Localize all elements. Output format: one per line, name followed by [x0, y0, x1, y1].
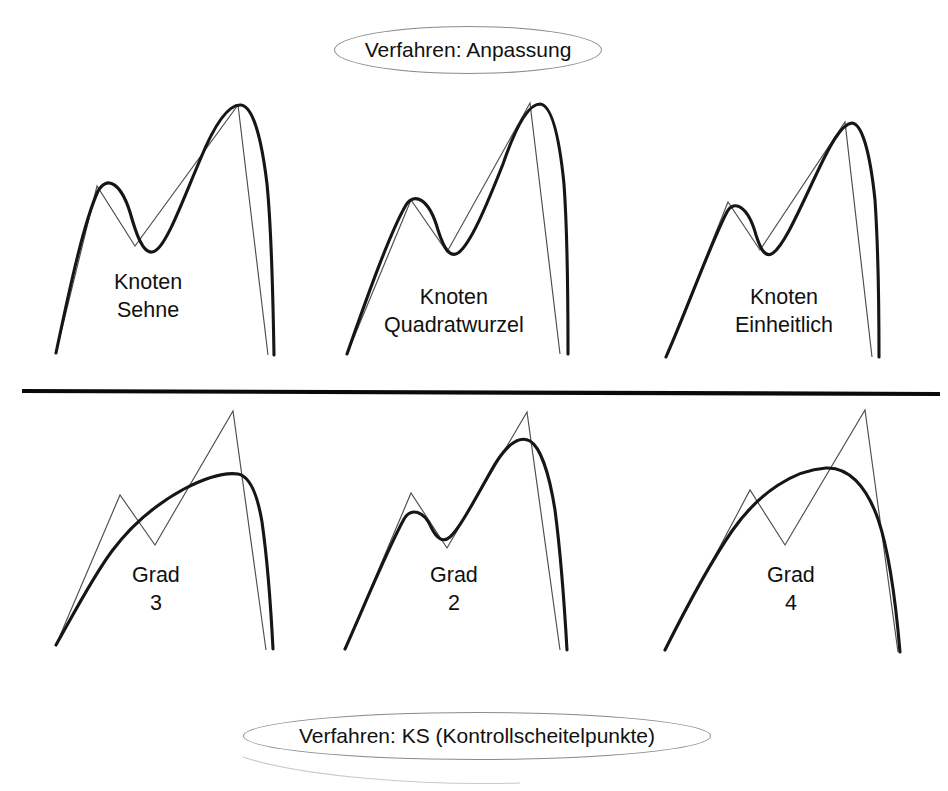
panel-label-line1: Grad [430, 561, 478, 589]
panel-label-line1: Grad [767, 561, 815, 589]
panel-label-knoten-einheitlich: Knoten Einheitlich [735, 283, 833, 340]
panel-label-knoten-sehne: Knoten Sehne [114, 268, 182, 325]
panel-label-line1: Grad [132, 561, 180, 589]
panel-label-line2: Quadratwurzel [384, 311, 524, 339]
diagram-canvas: Verfahren: Anpassung Verfahren: KS (Kont… [0, 0, 948, 791]
banner-verfahren-anpassung: Verfahren: Anpassung [334, 26, 602, 74]
panel-label-line2: Sehne [114, 296, 182, 324]
panel-label-line1: Knoten [735, 283, 833, 311]
bottom-edge-artifact [243, 757, 520, 784]
banner-bottom-label: Verfahren: KS (Kontrollscheitelpunkte) [299, 724, 655, 748]
panel-label-knoten-quadratwurzel: Knoten Quadratwurzel [384, 283, 524, 340]
curve-vector-layer [0, 0, 948, 791]
panel-label-line2: 2 [430, 589, 478, 617]
panel-label-grad-3: Grad 3 [132, 561, 180, 618]
fitted-curve-grad-4 [665, 468, 900, 652]
panel-label-grad-2: Grad 2 [430, 561, 478, 618]
banner-verfahren-ks: Verfahren: KS (Kontrollscheitelpunkte) [243, 712, 711, 760]
fitted-curve-grad-2 [345, 439, 567, 650]
panel-label-grad-4: Grad 4 [767, 561, 815, 618]
panel-label-line2: 4 [767, 589, 815, 617]
panel-label-line1: Knoten [114, 268, 182, 296]
panel-label-line2: 3 [132, 589, 180, 617]
panel-label-line2: Einheitlich [735, 311, 833, 339]
banner-top-label: Verfahren: Anpassung [365, 38, 572, 62]
section-divider [22, 391, 940, 394]
panel-label-line1: Knoten [384, 283, 524, 311]
